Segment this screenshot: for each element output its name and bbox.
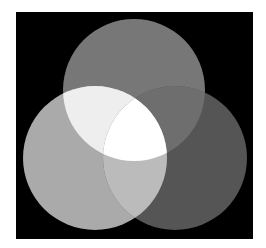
venn-diagram [0, 0, 266, 248]
